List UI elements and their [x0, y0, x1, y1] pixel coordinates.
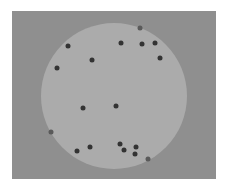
- dot: [114, 104, 119, 109]
- dot: [88, 145, 93, 150]
- dot: [140, 42, 145, 47]
- dot: [119, 41, 124, 46]
- dot: [81, 106, 86, 111]
- dot: [133, 152, 138, 157]
- dot: [122, 148, 127, 153]
- dot: [55, 66, 60, 71]
- dot: [138, 26, 143, 31]
- dot: [49, 130, 54, 135]
- dot: [90, 58, 95, 63]
- dot: [158, 56, 163, 61]
- dot: [134, 145, 139, 150]
- dot: [153, 41, 158, 46]
- dot: [75, 149, 80, 154]
- dot: [146, 157, 151, 162]
- circular-disc: [41, 23, 187, 169]
- dot: [66, 44, 71, 49]
- dot: [118, 142, 123, 147]
